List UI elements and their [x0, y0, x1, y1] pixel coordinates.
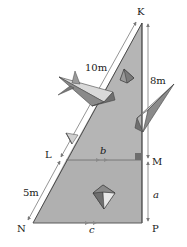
- measure-ln: 5m: [23, 188, 39, 198]
- measure-kl: 10m: [85, 63, 107, 73]
- vertex-label-p: P: [152, 224, 159, 234]
- vertex-label-k: K: [137, 7, 144, 17]
- measure-mp: a: [153, 190, 159, 200]
- similar-triangles-diagram: K L M N P 10m 5m 8m a b c: [0, 0, 187, 247]
- vertex-label-m: M: [152, 157, 162, 167]
- vertex-label-l: L: [45, 150, 52, 160]
- measure-np: c: [89, 225, 95, 235]
- measure-km: 8m: [150, 76, 166, 86]
- right-angle-marker: [135, 153, 142, 160]
- vertex-label-n: N: [17, 224, 26, 234]
- diagram-canvas: [0, 0, 187, 247]
- trapezoid-lnpm: [33, 160, 142, 223]
- measure-lm: b: [100, 146, 106, 156]
